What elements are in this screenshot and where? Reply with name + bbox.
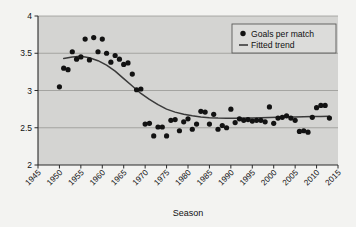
y-tick-label: 3 (27, 86, 32, 96)
data-point (104, 51, 109, 56)
legend-label-fitted-trend: Fitted trend (251, 40, 295, 50)
data-point (160, 124, 165, 129)
data-point (181, 119, 186, 124)
y-tick-label: 3.5 (20, 48, 32, 58)
x-tick-label: 1955 (67, 168, 87, 188)
x-tick-label: 1985 (195, 168, 215, 188)
data-point (87, 57, 92, 62)
data-point (271, 121, 276, 126)
x-tick-label: 1995 (238, 168, 258, 188)
data-point (117, 57, 122, 62)
data-point (185, 116, 190, 121)
x-tick-label: 2005 (281, 168, 301, 188)
data-point (147, 121, 152, 126)
data-point (108, 60, 113, 65)
data-point (78, 54, 83, 59)
data-point (113, 53, 118, 58)
x-tick-label: 1980 (174, 168, 194, 188)
y-tick-label: 4 (27, 11, 32, 21)
x-tick-label: 2000 (259, 168, 279, 188)
data-point (310, 115, 315, 120)
data-point (65, 67, 70, 72)
x-tick-label: 1990 (217, 168, 237, 188)
x-tick-label: 1945 (24, 168, 44, 188)
data-point (125, 60, 130, 65)
data-point (263, 119, 268, 124)
data-point (190, 127, 195, 132)
data-point (203, 110, 208, 115)
data-point (323, 103, 328, 108)
data-point (233, 120, 238, 125)
data-point (177, 128, 182, 133)
data-point (164, 133, 169, 138)
x-tick-label: 1950 (45, 168, 65, 188)
data-point (211, 112, 216, 117)
data-point (215, 127, 220, 132)
data-point (70, 49, 75, 54)
legend-marker-goals-per-match (240, 31, 245, 36)
data-point (130, 72, 135, 77)
data-point (95, 49, 100, 54)
data-point (305, 130, 310, 135)
legend-label-goals-per-match: Goals per match (251, 29, 314, 39)
goals-per-match-scatter-chart: 22.533.54 194519501955196019651970197519… (0, 0, 356, 227)
data-point (83, 36, 88, 41)
data-point (224, 125, 229, 130)
data-point (228, 107, 233, 112)
data-point (100, 36, 105, 41)
data-point (293, 118, 298, 123)
x-tick-label: 2010 (302, 168, 322, 188)
x-tick-label: 1960 (88, 168, 108, 188)
data-point (207, 121, 212, 126)
data-point (327, 115, 332, 120)
x-axis-ticks-group: 1945195019551960196519701975198019851990… (24, 165, 344, 187)
data-point (151, 133, 156, 138)
y-tick-label: 2.5 (20, 123, 32, 133)
chart-container: 22.533.54 194519501955196019651970197519… (0, 0, 356, 227)
data-point (267, 104, 272, 109)
x-tick-label: 1970 (131, 168, 151, 188)
y-axis-ticks-group: 22.533.54 (20, 11, 38, 170)
data-point (173, 117, 178, 122)
x-tick-label: 1975 (152, 168, 172, 188)
data-point (91, 35, 96, 40)
x-axis-title-group: Season (173, 208, 204, 218)
data-point (138, 86, 143, 91)
x-tick-label: 2015 (324, 168, 344, 188)
x-axis-title: Season (173, 208, 204, 218)
data-point (57, 84, 62, 89)
data-point (194, 121, 199, 126)
x-tick-label: 1965 (109, 168, 129, 188)
y-tick-label: 2 (27, 160, 32, 170)
chart-legend: Goals per match Fitted trend (232, 24, 336, 53)
